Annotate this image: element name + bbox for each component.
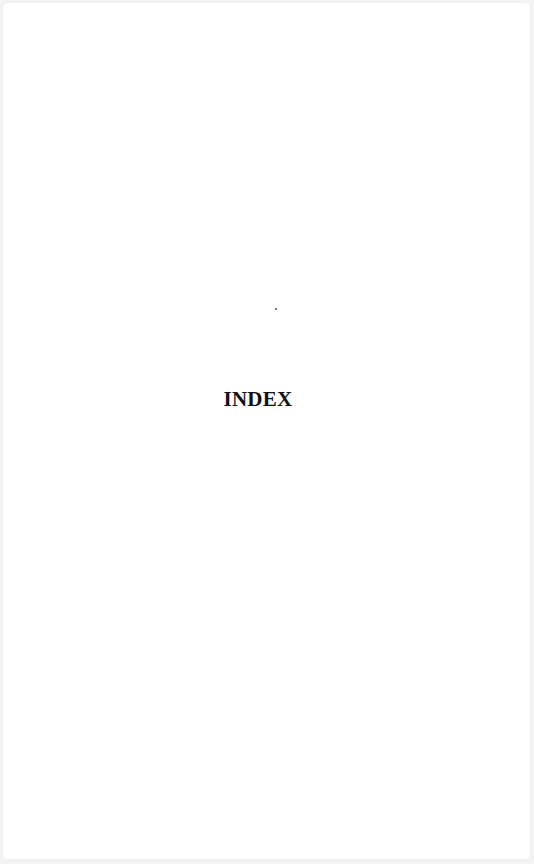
page-title: INDEX (3, 387, 513, 412)
book-page: INDEX (3, 3, 530, 859)
printer-mark-dot (275, 308, 277, 310)
